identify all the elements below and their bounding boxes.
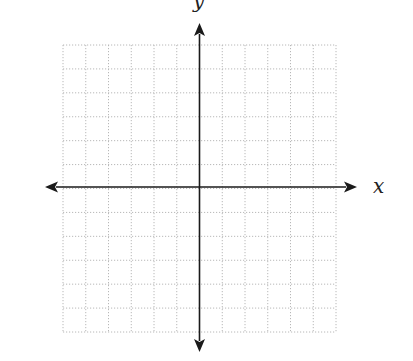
- coordinate-plane: x y: [0, 0, 413, 361]
- y-axis-label: y: [192, 0, 205, 13]
- axes: [45, 23, 357, 352]
- x-axis-label: x: [373, 174, 384, 198]
